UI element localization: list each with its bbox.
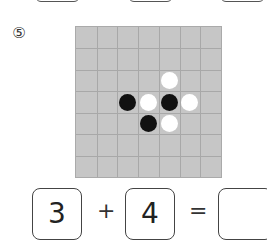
go-board [75, 26, 222, 178]
previous-answer-box-1 [35, 0, 80, 2]
equals-sign: = [189, 198, 207, 223]
operand-2-box: 4 [125, 188, 175, 240]
black-stone [119, 94, 136, 111]
grid-line [76, 48, 221, 49]
white-stone [181, 94, 198, 111]
grid-line [117, 27, 118, 177]
white-stone [161, 115, 178, 132]
plus-sign: + [97, 198, 115, 223]
grid-line [76, 91, 221, 92]
operand-1-box: 3 [32, 188, 82, 240]
grid-line [138, 27, 139, 177]
grid-line [76, 134, 221, 135]
grid-line [180, 27, 181, 177]
grid-line [159, 27, 160, 177]
grid-line [200, 27, 201, 177]
white-stone [140, 94, 157, 111]
grid-line [76, 70, 221, 71]
white-stone [161, 72, 178, 89]
grid-line [97, 27, 98, 177]
previous-answer-box-3 [220, 0, 265, 2]
previous-answer-box-2 [128, 0, 173, 2]
grid-line [76, 156, 221, 157]
black-stone [161, 94, 178, 111]
answer-input-box[interactable] [218, 188, 267, 240]
black-stone [140, 115, 157, 132]
problem-number: ⑤ [12, 26, 26, 40]
grid-line [76, 113, 221, 114]
